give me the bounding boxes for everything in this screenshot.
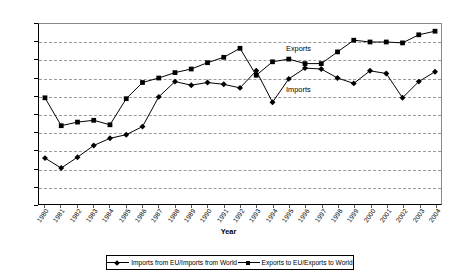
x-axis-tick-label: 2003 (412, 208, 426, 224)
x-axis-tick-label: 1999 (347, 208, 361, 224)
x-axis-tick-label: 1989 (183, 208, 197, 224)
x-axis-tick-label: 1995 (281, 208, 295, 224)
legend-item-imports[interactable]: Imports from EU/Imports from World (107, 259, 237, 266)
legend-label-imports: Imports from EU/Imports from World (131, 259, 237, 266)
square-marker-icon (246, 261, 250, 265)
x-axis-tick-label: 2000 (363, 208, 377, 224)
legend-item-exports[interactable]: Exports to EU/Exports to World (238, 259, 353, 266)
x-axis-tick-label: 1987 (151, 208, 165, 224)
x-axis-tick-label: 1982 (69, 208, 83, 224)
x-axis-tick-label: 2004 (428, 208, 442, 224)
x-axis-title: Year (0, 227, 457, 236)
annotation-imports: Imports (286, 85, 311, 94)
x-axis-tick-label: 1997 (314, 208, 328, 224)
diamond-marker-icon (114, 260, 120, 266)
x-axis-tick-label: 1986 (134, 208, 148, 224)
legend-swatch-exports-icon (238, 259, 260, 266)
chart-legend: Imports from EU/Imports from World Expor… (106, 255, 354, 270)
x-axis-tick-label: 1991 (216, 208, 230, 224)
x-axis-tick-label: 2002 (396, 208, 410, 224)
x-axis-tick-label: 1981 (53, 208, 67, 224)
x-axis-tick-label: 1996 (298, 208, 312, 224)
x-axis-tick-label: 1990 (200, 208, 214, 224)
x-axis-tick-label: 1992 (232, 208, 246, 224)
x-axis-tick-label: 1984 (102, 208, 116, 224)
x-axis-tick-label: 1998 (330, 208, 344, 224)
x-axis-tick-label: 1993 (249, 208, 263, 224)
x-axis: 1980198119821983198419851986198719881989… (0, 0, 457, 278)
x-axis-tick-label: 1985 (118, 208, 132, 224)
x-axis-tick-label: 2001 (379, 208, 393, 224)
x-axis-tick-label: 1983 (85, 208, 99, 224)
x-axis-tick-label: 1994 (265, 208, 279, 224)
legend-label-exports: Exports to EU/Exports to World (262, 259, 353, 266)
line-chart: 70%68%66%64%62%60%58%56%54%52%50% 198019… (0, 0, 457, 278)
x-axis-tick-label: 1980 (36, 208, 50, 224)
x-axis-tick-label: 1988 (167, 208, 181, 224)
legend-swatch-imports-icon (107, 259, 129, 266)
annotation-exports: Exports (286, 44, 311, 53)
